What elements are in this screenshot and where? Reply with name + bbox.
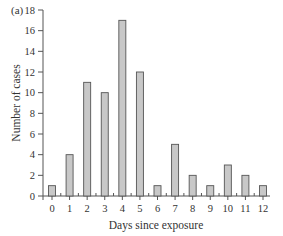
bar-day-2 bbox=[84, 82, 91, 196]
y-axis: 024681012141618 bbox=[25, 5, 44, 202]
y-tick-label: 4 bbox=[30, 149, 36, 160]
x-tick-label: 12 bbox=[258, 203, 269, 214]
y-tick-label: 2 bbox=[30, 170, 35, 181]
bar-day-8 bbox=[189, 175, 196, 196]
bar-day-10 bbox=[224, 165, 231, 196]
y-tick-label: 16 bbox=[25, 25, 36, 36]
bar-day-6 bbox=[154, 186, 161, 196]
x-tick-label: 11 bbox=[240, 203, 250, 214]
y-tick-label: 0 bbox=[30, 191, 35, 202]
x-tick-label: 9 bbox=[208, 203, 213, 214]
x-tick-label: 8 bbox=[190, 203, 195, 214]
bar-day-7 bbox=[172, 144, 179, 196]
bar-day-5 bbox=[136, 72, 143, 196]
bar-day-11 bbox=[242, 175, 249, 196]
y-tick-label: 8 bbox=[30, 108, 35, 119]
panel-label: (a) bbox=[11, 4, 24, 17]
x-tick-label: 0 bbox=[49, 203, 54, 214]
x-tick-label: 2 bbox=[85, 203, 90, 214]
bar-day-3 bbox=[101, 93, 108, 196]
x-tick-label: 10 bbox=[223, 203, 234, 214]
bar-day-12 bbox=[260, 186, 267, 196]
bars bbox=[49, 20, 267, 196]
x-tick-label: 7 bbox=[172, 203, 177, 214]
x-tick-label: 3 bbox=[102, 203, 107, 214]
x-axis-title: Days since exposure bbox=[109, 219, 204, 232]
y-axis-title: Number of cases bbox=[10, 64, 22, 142]
y-tick-label: 10 bbox=[25, 87, 36, 98]
bar-day-4 bbox=[119, 20, 126, 196]
bar-day-9 bbox=[207, 186, 214, 196]
x-tick-label: 4 bbox=[120, 203, 126, 214]
bar-chart: (a) 024681012141618 0123456789101112 Num… bbox=[0, 0, 283, 236]
x-tick-label: 6 bbox=[155, 203, 160, 214]
bar-day-1 bbox=[66, 155, 73, 196]
y-tick-label: 18 bbox=[25, 5, 36, 16]
x-tick-label: 1 bbox=[67, 203, 72, 214]
x-tick-label: 5 bbox=[137, 203, 142, 214]
y-tick-label: 14 bbox=[25, 46, 36, 57]
y-tick-label: 12 bbox=[25, 67, 36, 78]
y-tick-label: 6 bbox=[30, 129, 35, 140]
bar-day-0 bbox=[49, 186, 56, 196]
